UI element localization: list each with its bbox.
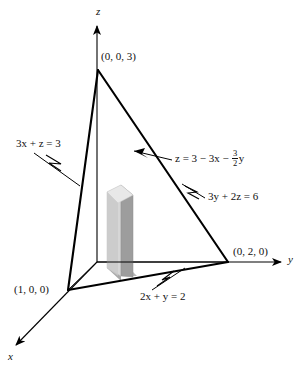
annotation-surface-equation-prefix: z = 3 − 3x −: [175, 152, 232, 164]
leader-2x-plus-y: [152, 268, 185, 290]
annotation-2x-plus-y: 2x + y = 2: [140, 291, 185, 302]
edge-z-to-x: [68, 70, 98, 290]
riemann-prism: [107, 185, 137, 281]
prism-left-face-highlight: [107, 192, 118, 276]
diagram-canvas: [0, 0, 302, 370]
leader-surface-equation-head: [134, 148, 148, 158]
y-axis-label: y: [288, 254, 293, 265]
vertex-label-x-intercept: (1, 0, 0): [14, 284, 49, 295]
annotation-surface-equation-fraction: 32: [232, 149, 238, 167]
annotation-surface-equation-suffix: y: [239, 152, 245, 164]
annotation-3x-plus-z: 3x + z = 3: [16, 138, 61, 149]
tetrahedron-edges: [68, 70, 228, 290]
annotation-3y-plus-2z: 3y + 2z = 6: [208, 191, 258, 202]
leader-3y-plus-2z-tick: [185, 186, 199, 199]
figure-3d-tetrahedron: z y x (0, 0, 3) (1, 0, 0) (0, 2, 0) 3x +…: [0, 0, 302, 370]
z-axis-label: z: [96, 6, 100, 17]
vertex-label-z-intercept: (0, 0, 3): [101, 51, 136, 62]
x-axis-label: x: [8, 351, 13, 362]
x-axis-line: [16, 262, 97, 345]
vertex-label-y-intercept: (0, 2, 0): [233, 246, 268, 257]
annotation-surface-equation: z = 3 − 3x − 32y: [175, 149, 244, 167]
leader-3x-plus-z: [34, 153, 80, 186]
